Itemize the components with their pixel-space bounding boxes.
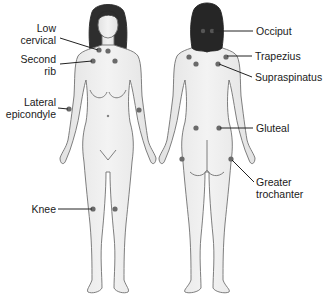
dot-trochanter-left	[179, 156, 184, 161]
dot-epicondyle-right	[136, 107, 141, 112]
back-figure	[159, 3, 255, 293]
label-lateral-epicondyle: Lateral epicondyle	[0, 96, 56, 120]
label-line: cervical	[4, 34, 56, 46]
label-line: Low	[4, 22, 56, 34]
label-line: Lateral	[0, 96, 56, 108]
label-low-cervical: Low cervical	[4, 22, 56, 46]
label-second-rib: Second rib	[4, 53, 56, 77]
dot-trapezius-right	[223, 54, 228, 59]
dot-trapezius-left	[186, 54, 191, 59]
dot-low-cervical-right	[105, 48, 110, 53]
label-line: rib	[4, 65, 56, 77]
dot-gluteal-left	[193, 125, 198, 130]
label-line: Greater	[256, 176, 303, 188]
label-knee: Knee	[4, 203, 56, 215]
label-line: epicondyle	[0, 108, 56, 120]
label-supraspinatus: Supraspinatus	[255, 71, 322, 83]
dot-knee-right	[112, 206, 117, 211]
label-line: trochanter	[256, 188, 303, 200]
label-occiput: Occiput	[256, 25, 292, 37]
dot-second-rib-right	[112, 58, 117, 63]
label-greater-trochanter: Greater trochanter	[256, 176, 303, 200]
front-figure	[60, 5, 156, 293]
label-gluteal: Gluteal	[256, 122, 289, 134]
label-line: Second	[4, 53, 56, 65]
dot-supraspinatus-left	[193, 61, 198, 66]
label-trapezius: Trapezius	[255, 50, 301, 62]
dot-occiput-left	[201, 29, 205, 33]
